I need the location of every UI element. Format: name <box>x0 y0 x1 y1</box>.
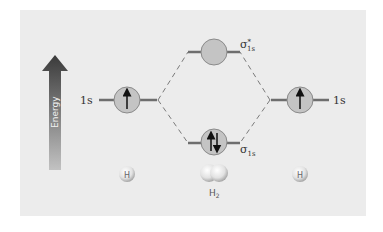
molecule-label-sub: 2 <box>216 192 220 199</box>
antibonding-label-sub: 1s <box>247 45 255 53</box>
left-atom-label: H <box>124 171 130 180</box>
bonding-label-sub: 1s <box>248 150 256 158</box>
h2-molecule <box>200 164 228 182</box>
right-1s-orbital <box>271 87 329 113</box>
left-1s-orbital <box>99 87 157 113</box>
right-atom-label: H <box>297 171 303 180</box>
antibonding-label: σ*1s <box>240 38 255 53</box>
bonding-orbital <box>188 129 240 155</box>
molecule-label: H2 <box>209 188 220 199</box>
energy-axis-label: Energy <box>50 96 60 128</box>
right-hydrogen-atom: H <box>292 166 308 182</box>
left-hydrogen-atom: H <box>119 166 135 182</box>
molecule-label-main: H <box>209 188 216 198</box>
antibonding-orbital <box>188 39 240 65</box>
bonding-label: σ1s <box>240 143 256 158</box>
right-orbital-label: 1s <box>333 94 346 107</box>
mo-diagram: Energy 1s 1s σ*1s σ1s H <box>0 0 383 232</box>
left-orbital-label: 1s <box>80 94 93 107</box>
